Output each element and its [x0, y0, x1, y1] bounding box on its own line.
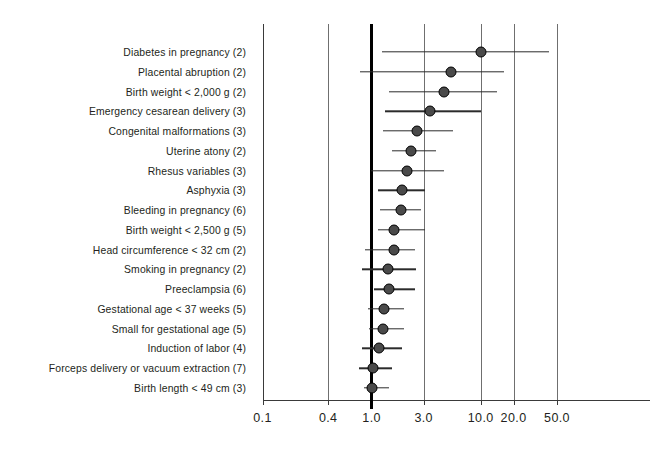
confidence-interval-line — [360, 71, 505, 72]
point-estimate-marker — [475, 47, 486, 58]
x-axis-tick-label: 3.0 — [414, 412, 433, 425]
x-axis-tick-label: 50.0 — [544, 412, 570, 425]
point-estimate-marker — [397, 185, 408, 196]
point-estimate-marker — [379, 303, 390, 314]
plot-area: 0.10.41.03.010.020.050.0 — [0, 0, 668, 454]
point-estimate-marker — [384, 284, 395, 295]
point-estimate-marker — [388, 224, 399, 235]
y-axis-line — [263, 24, 264, 400]
point-estimate-marker — [401, 165, 412, 176]
point-estimate-marker — [445, 66, 456, 77]
point-estimate-marker — [367, 363, 378, 374]
point-estimate-marker — [366, 382, 377, 393]
gridline — [557, 24, 558, 400]
forest-plot: Diabetes in pregnancy (2)Placental abrup… — [0, 0, 668, 454]
x-axis-line — [263, 400, 651, 401]
x-axis-tick — [424, 400, 425, 405]
confidence-interval-line — [378, 229, 425, 230]
x-axis-tick — [514, 400, 515, 405]
gridline — [481, 24, 482, 400]
point-estimate-marker — [438, 86, 449, 97]
x-axis-tick — [263, 400, 264, 405]
point-estimate-marker — [411, 126, 422, 137]
null-effect-line — [370, 24, 372, 409]
point-estimate-marker — [395, 205, 406, 216]
x-axis-tick-label: 10.0 — [468, 412, 494, 425]
point-estimate-marker — [382, 264, 393, 275]
point-estimate-marker — [406, 145, 417, 156]
confidence-interval-line — [382, 51, 549, 52]
x-axis-tick — [557, 400, 558, 405]
point-estimate-marker — [424, 106, 435, 117]
gridline — [328, 24, 329, 400]
x-axis-tick-label: 0.1 — [253, 412, 272, 425]
point-estimate-marker — [374, 343, 385, 354]
x-axis-tick — [481, 400, 482, 405]
x-axis-tick-label: 1.0 — [362, 412, 381, 425]
point-estimate-marker — [378, 323, 389, 334]
point-estimate-marker — [389, 244, 400, 255]
x-axis-tick — [328, 400, 329, 405]
gridline — [424, 24, 425, 400]
gridline — [514, 24, 515, 400]
x-axis-tick-label: 20.0 — [501, 412, 527, 425]
x-axis-tick-label: 0.4 — [319, 412, 338, 425]
